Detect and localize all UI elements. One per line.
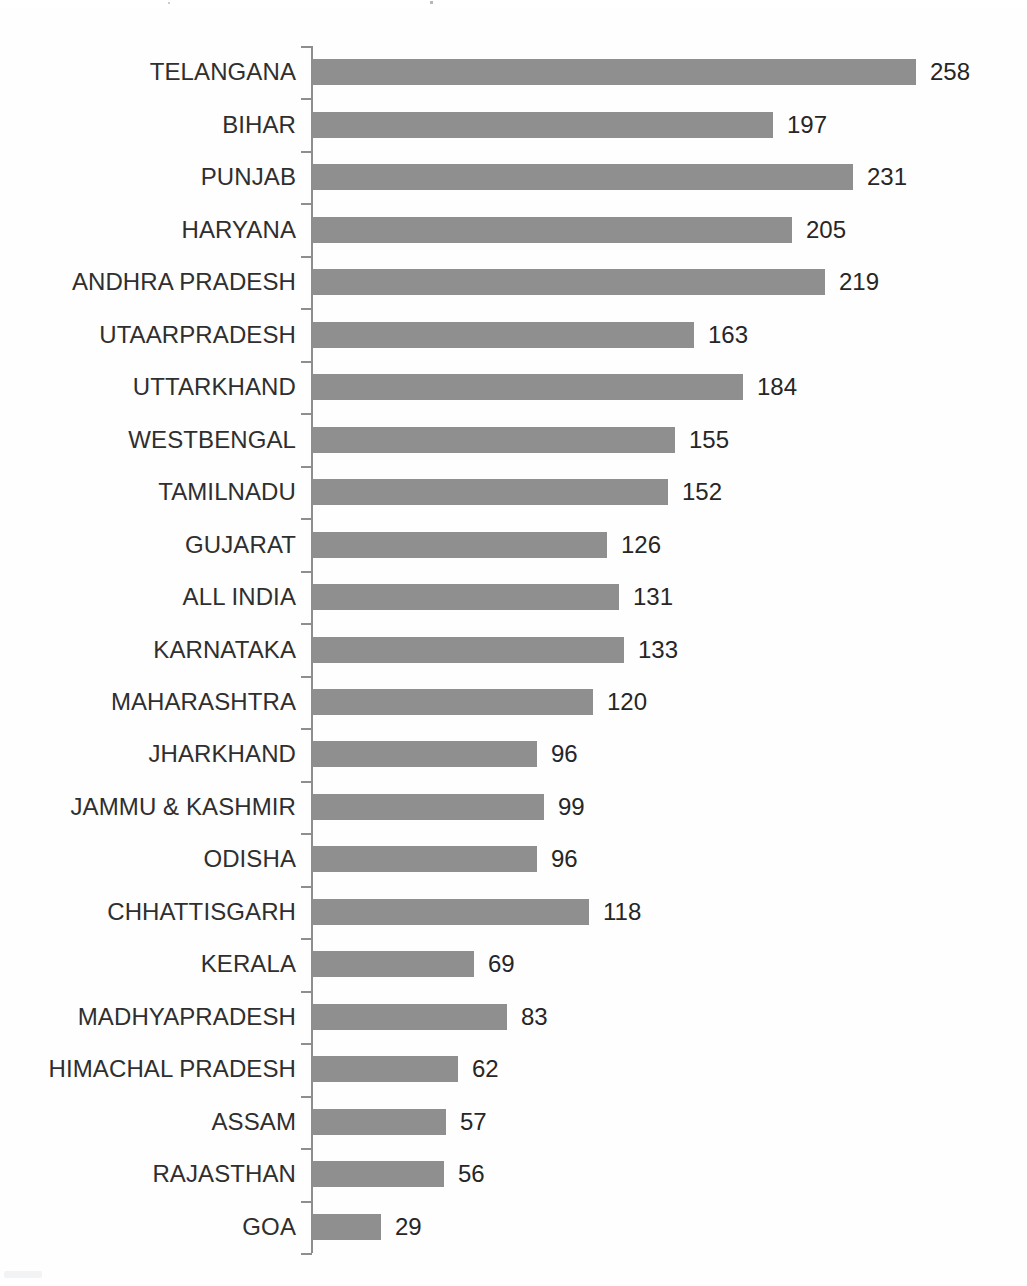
category-label: PUNJAB — [0, 163, 296, 191]
axis-tick-mark — [301, 728, 312, 730]
category-label: RAJASTHAN — [0, 1160, 296, 1188]
bar-value-label: 163 — [708, 321, 748, 349]
bar-value-label: 126 — [621, 531, 661, 559]
bar-chart-plot-area: TELANGANA258BIHAR197PUNJAB231HARYANA205A… — [0, 0, 1027, 1286]
data-bar — [313, 164, 853, 190]
category-label: ANDHRA PRADESH — [0, 268, 296, 296]
bar-value-label: 219 — [839, 268, 879, 296]
bar-value-label: 69 — [488, 950, 515, 978]
axis-tick-mark — [301, 203, 312, 205]
bar-value-label: 96 — [551, 845, 578, 873]
data-bar — [313, 427, 675, 453]
axis-tick-mark — [301, 1043, 312, 1045]
bar-value-label: 120 — [607, 688, 647, 716]
category-label: JAMMU & KASHMIR — [0, 793, 296, 821]
bar-value-label: 131 — [633, 583, 673, 611]
axis-tick-mark — [301, 938, 312, 940]
axis-tick-mark — [301, 46, 312, 48]
category-label: MADHYAPRADESH — [0, 1003, 296, 1031]
axis-tick-mark — [301, 1148, 312, 1150]
data-bar — [313, 951, 474, 977]
data-bar — [313, 584, 619, 610]
axis-tick-mark — [301, 623, 312, 625]
data-bar — [313, 374, 743, 400]
category-label: HARYANA — [0, 216, 296, 244]
data-bar — [313, 532, 607, 558]
bar-value-label: 231 — [867, 163, 907, 191]
category-label: CHHATTISGARH — [0, 898, 296, 926]
bar-value-label: 133 — [638, 636, 678, 664]
bar-value-label: 62 — [472, 1055, 499, 1083]
axis-tick-mark — [301, 571, 312, 573]
data-bar — [313, 217, 792, 243]
category-label: TAMILNADU — [0, 478, 296, 506]
data-bar — [313, 1056, 458, 1082]
data-bar — [313, 689, 593, 715]
axis-tick-mark — [301, 991, 312, 993]
axis-tick-mark — [301, 676, 312, 678]
axis-tick-mark — [301, 256, 312, 258]
axis-tick-mark — [301, 98, 312, 100]
category-label: GUJARAT — [0, 531, 296, 559]
category-label: KERALA — [0, 950, 296, 978]
data-bar — [313, 112, 773, 138]
chart-page: TELANGANA258BIHAR197PUNJAB231HARYANA205A… — [0, 0, 1027, 1286]
bar-value-label: 56 — [458, 1160, 485, 1188]
bar-value-label: 155 — [689, 426, 729, 454]
category-label: TELANGANA — [0, 58, 296, 86]
axis-tick-mark — [301, 466, 312, 468]
axis-tick-mark — [301, 1096, 312, 1098]
bar-value-label: 152 — [682, 478, 722, 506]
category-label: JHARKHAND — [0, 740, 296, 768]
data-bar — [313, 846, 537, 872]
axis-tick-mark — [301, 833, 312, 835]
category-label: ASSAM — [0, 1108, 296, 1136]
data-bar — [313, 479, 668, 505]
data-bar — [313, 1161, 444, 1187]
data-bar — [313, 59, 916, 85]
category-label: KARNATAKA — [0, 636, 296, 664]
category-label: HIMACHAL PRADESH — [0, 1055, 296, 1083]
category-label: ODISHA — [0, 845, 296, 873]
data-bar — [313, 1109, 446, 1135]
data-bar — [313, 637, 624, 663]
data-bar — [313, 269, 825, 295]
bar-value-label: 99 — [558, 793, 585, 821]
data-bar — [313, 899, 589, 925]
bar-value-label: 197 — [787, 111, 827, 139]
bar-value-label: 258 — [930, 58, 970, 86]
axis-tick-mark — [301, 308, 312, 310]
category-label: MAHARASHTRA — [0, 688, 296, 716]
page-bottom-artifact — [4, 1271, 42, 1278]
bar-value-label: 29 — [395, 1213, 422, 1241]
axis-tick-mark — [301, 1253, 312, 1255]
bar-value-label: 83 — [521, 1003, 548, 1031]
axis-tick-mark — [301, 413, 312, 415]
category-label: UTAARPRADESH — [0, 321, 296, 349]
category-label: UTTARKHAND — [0, 373, 296, 401]
data-bar — [313, 741, 537, 767]
category-label: WESTBENGAL — [0, 426, 296, 454]
category-label: GOA — [0, 1213, 296, 1241]
bar-value-label: 184 — [757, 373, 797, 401]
bar-value-label: 57 — [460, 1108, 487, 1136]
axis-tick-mark — [301, 781, 312, 783]
data-bar — [313, 794, 544, 820]
bar-value-label: 205 — [806, 216, 846, 244]
axis-tick-mark — [301, 886, 312, 888]
bar-value-label: 118 — [603, 898, 641, 926]
data-bar — [313, 322, 694, 348]
data-bar — [313, 1214, 381, 1240]
category-label: BIHAR — [0, 111, 296, 139]
category-label: ALL INDIA — [0, 583, 296, 611]
bar-rows-container: TELANGANA258BIHAR197PUNJAB231HARYANA205A… — [0, 46, 1027, 1253]
bar-value-label: 96 — [551, 740, 578, 768]
axis-tick-mark — [301, 1201, 312, 1203]
axis-tick-mark — [301, 361, 312, 363]
axis-tick-mark — [301, 151, 312, 153]
data-bar — [313, 1004, 507, 1030]
axis-tick-mark — [301, 518, 312, 520]
